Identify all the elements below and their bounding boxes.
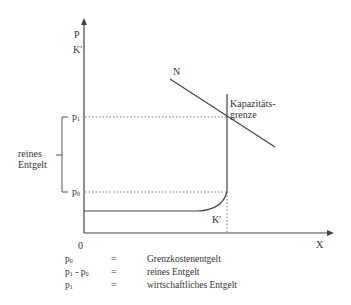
capacity-label: Kapazitäts- grenze [230, 98, 276, 120]
p1-label: p1 [72, 111, 80, 125]
x-axis-arrow-icon [327, 230, 334, 236]
y-axis-label-k: K' [73, 44, 82, 55]
p0-label: p0 [72, 186, 80, 200]
brace-icon [56, 117, 68, 192]
legend-row: p1 = wirtschaftliches Entgelt [65, 279, 237, 292]
legend: p0 = Grenzkostenentgelt p1 - p0 = reines… [65, 253, 237, 292]
marginal-cost-curve [84, 94, 227, 211]
demand-label: N [173, 66, 180, 77]
x-axis-label: X [316, 239, 323, 250]
legend-row: p0 = Grenzkostenentgelt [65, 253, 237, 266]
y-axis-arrow-icon [81, 18, 87, 25]
y-axis-label-p: P [74, 29, 80, 40]
legend-row: p1 - p0 = reines Entgelt [65, 266, 237, 279]
cost-curve-label: K' [212, 214, 221, 225]
brace-label: reines Entgelt [18, 148, 47, 170]
origin-label: 0 [78, 240, 83, 251]
